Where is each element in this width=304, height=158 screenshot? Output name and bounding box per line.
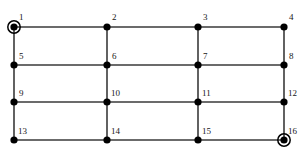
- node-label-15: 15: [202, 127, 211, 136]
- node-label-8: 8: [289, 52, 294, 61]
- node-label-3: 3: [203, 13, 208, 22]
- graph-node-2: [103, 23, 110, 30]
- graph-node-3: [194, 23, 201, 30]
- graph-node-13: [10, 136, 17, 143]
- graph-node-14: [103, 136, 110, 143]
- edge-layer: [14, 27, 284, 140]
- node-label-9: 9: [19, 89, 24, 98]
- node-label-14: 14: [111, 127, 120, 136]
- graph-node-11: [194, 98, 201, 105]
- graph-node-8: [280, 61, 287, 68]
- node-layer: [8, 21, 290, 146]
- bottom-caption-text: [0, 151, 304, 158]
- node-label-4: 4: [289, 13, 294, 22]
- node-label-10: 10: [111, 89, 120, 98]
- graph-node-10: [103, 98, 110, 105]
- node-label-7: 7: [203, 52, 208, 61]
- graph-node-6: [103, 61, 110, 68]
- node-label-12: 12: [288, 89, 297, 98]
- graph-node-7: [194, 61, 201, 68]
- grid-graph-diagram: [0, 0, 304, 158]
- graph-node-1: [10, 23, 17, 30]
- graph-node-12: [280, 98, 287, 105]
- graph-node-15: [194, 136, 201, 143]
- graph-node-4: [280, 23, 287, 30]
- node-label-6: 6: [112, 52, 117, 61]
- node-label-11: 11: [202, 89, 211, 98]
- node-label-1: 1: [19, 13, 24, 22]
- graph-node-9: [10, 98, 17, 105]
- node-label-5: 5: [19, 52, 24, 61]
- node-label-2: 2: [112, 13, 117, 22]
- node-label-16: 16: [288, 127, 297, 136]
- graph-node-16: [280, 136, 287, 143]
- graph-node-5: [10, 61, 17, 68]
- figure-canvas: 12345678910111213141516: [0, 0, 304, 158]
- node-label-13: 13: [18, 127, 27, 136]
